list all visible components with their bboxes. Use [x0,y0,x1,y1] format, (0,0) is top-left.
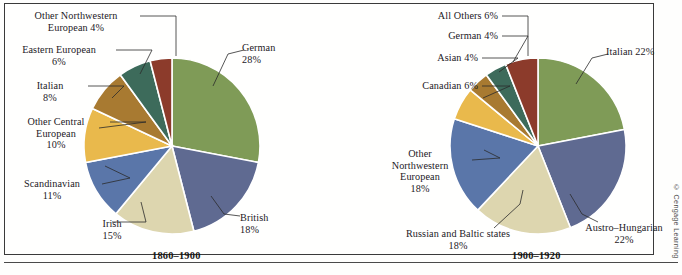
pie-slice-label: British 18% [240,212,310,235]
pie-slice-label: German 28% [242,42,316,65]
pie-slice-label: German 4% [388,30,498,42]
pie-caption: 1900–1920 [512,250,561,261]
pie-slice-label: Irish 15% [80,218,144,241]
pie-slice-label: All Others 6% [388,10,498,22]
pie-slice-label: Asian 4% [378,52,478,64]
pie-slice-label: Other Central European 10% [4,116,108,151]
pie-caption: 1860–1900 [152,250,201,261]
pie-slice-label: Italian 22% [606,46,682,58]
pie-slices-layer [84,58,626,234]
pie-slice-label: Other Northwestern European 18% [370,148,470,194]
pie-slice-label: Russian and Baltic states 18% [378,228,538,251]
pie-slice-label: Scandinavian 11% [4,178,100,201]
pie-slice-label: Italian 8% [14,80,86,103]
immigration-pie-figure: Other Northwestern European 4%Eastern Eu… [0,0,682,275]
pie-slice-label: Other Northwestern European 4% [14,10,138,33]
pie-slice-label: Austro–Hungarian 22% [570,222,678,245]
pie-slice-label: Eastern European 6% [4,44,114,67]
pie-slice-label: Canadian 6% [368,80,478,92]
copyright-credit: © Cengage Learning [672,183,681,259]
pie-slice [172,58,260,162]
